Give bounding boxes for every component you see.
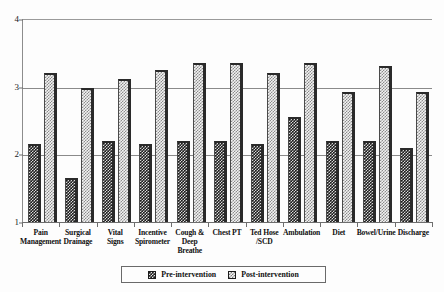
- bar-group: [400, 19, 431, 222]
- x-tick-mark: [97, 222, 98, 227]
- bar-post-intervention: [416, 92, 429, 222]
- bar-post-intervention: [304, 63, 317, 222]
- x-tick-mark: [395, 222, 396, 227]
- bar-group: [65, 19, 96, 222]
- bar-post-intervention: [44, 73, 57, 222]
- bar-post-intervention: [193, 63, 206, 222]
- bar-post-intervention: [81, 88, 94, 222]
- x-tick-mark: [320, 222, 321, 227]
- bar-group: [326, 19, 357, 222]
- y-tick-label-4: 4: [15, 15, 20, 24]
- bar-pre-intervention: [214, 141, 227, 222]
- x-tick-label: Discharge: [389, 228, 438, 237]
- bar-group: [28, 19, 59, 222]
- bar-group: [251, 19, 282, 222]
- bar-post-intervention: [118, 79, 131, 222]
- x-tick-mark: [432, 222, 433, 227]
- chart-legend: Pre-intervention Post-intervention: [121, 266, 326, 283]
- x-tick-mark: [246, 222, 247, 227]
- bar-pre-intervention: [177, 141, 190, 222]
- bar-post-intervention: [379, 66, 392, 222]
- bar-chart: 1234 PainManagementSurgicalDrainageVital…: [0, 0, 444, 292]
- bar-pre-intervention: [400, 148, 413, 222]
- x-label-line: /SCD: [240, 237, 289, 246]
- legend-label-pre: Pre-intervention: [161, 270, 216, 279]
- bar-pre-intervention: [251, 144, 264, 222]
- x-tick-mark: [208, 222, 209, 227]
- legend-item-pre: Pre-intervention: [148, 270, 216, 279]
- bar-post-intervention: [155, 70, 168, 222]
- x-label-line: Discharge: [389, 228, 438, 237]
- x-label-line: Breathe: [165, 246, 214, 255]
- bar-pre-intervention: [102, 141, 115, 222]
- x-tick-mark: [283, 222, 284, 227]
- x-tick-mark: [59, 222, 60, 227]
- bar-group: [214, 19, 245, 222]
- bar-group: [363, 19, 394, 222]
- bar-post-intervention: [267, 73, 280, 222]
- x-axis: PainManagementSurgicalDrainageVitalSigns…: [22, 222, 432, 268]
- bar-pre-intervention: [139, 144, 152, 222]
- y-tick-label-3: 3: [15, 83, 20, 92]
- bar-group: [139, 19, 170, 222]
- post-intervention-swatch-icon: [228, 271, 236, 279]
- bar-pre-intervention: [65, 178, 78, 222]
- bar-group: [102, 19, 133, 222]
- bar-pre-intervention: [28, 144, 41, 222]
- x-tick-mark: [22, 222, 23, 227]
- pre-intervention-swatch-icon: [148, 271, 156, 279]
- bar-pre-intervention: [326, 141, 339, 222]
- legend-label-post: Post-intervention: [241, 270, 299, 279]
- bar-pre-intervention: [288, 117, 301, 222]
- x-tick-mark: [171, 222, 172, 227]
- bars-layer: [22, 19, 432, 222]
- y-tick-label-1: 1: [15, 218, 20, 227]
- bar-group: [177, 19, 208, 222]
- bar-post-intervention: [230, 63, 243, 222]
- legend-item-post: Post-intervention: [228, 270, 299, 279]
- x-tick-mark: [134, 222, 135, 227]
- bar-pre-intervention: [363, 141, 376, 222]
- bar-post-intervention: [342, 92, 355, 222]
- bar-group: [288, 19, 319, 222]
- y-tick-label-2: 2: [15, 151, 20, 160]
- x-tick-mark: [357, 222, 358, 227]
- x-label-line: Deep: [165, 237, 214, 246]
